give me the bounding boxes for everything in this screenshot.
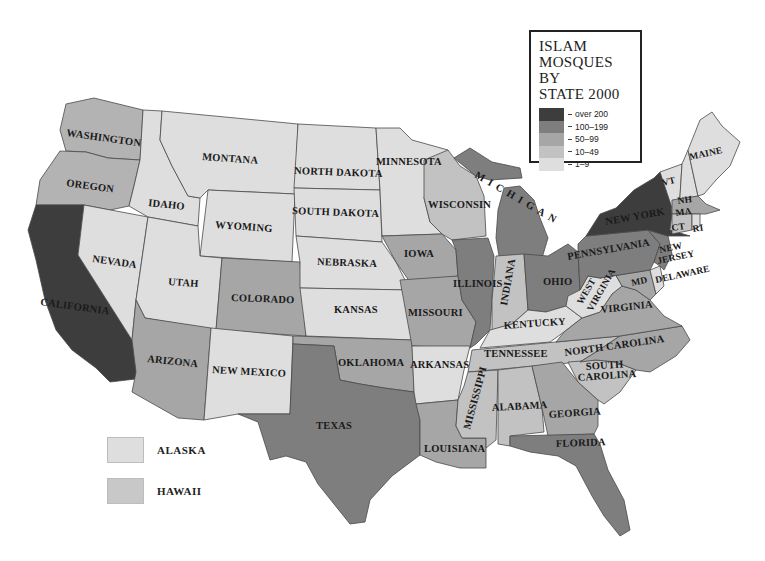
label-arkansas: ARKANSAS — [410, 359, 469, 370]
legend-classes: over 200 100–199 50–99 10–49 1–9 — [539, 108, 632, 171]
label-ohio: OHIO — [543, 276, 572, 287]
legend-title-line: STATE 2000 — [539, 86, 632, 102]
legend-title-line: ISLAM — [539, 38, 632, 54]
legend-label: over 200 — [568, 109, 608, 119]
legend-row: 50–99 — [539, 133, 632, 146]
label-missouri: MISSOURI — [408, 307, 463, 318]
legend-title: ISLAM MOSQUES BY STATE 2000 — [539, 38, 632, 102]
legend-label: 1–9 — [568, 159, 589, 169]
alaska-label: ALASKA — [157, 444, 206, 456]
label-kansas: KANSAS — [334, 304, 378, 315]
label-new-hampshire: NH — [677, 194, 693, 206]
us-map: WASHINGTON OREGON CALIFORNIA NEVADA IDAH… — [0, 0, 765, 561]
legend-swatch — [539, 158, 564, 171]
legend-title-line: MOSQUES BY — [539, 54, 632, 86]
label-minnesota: MINNESOTA — [376, 156, 442, 167]
label-iowa: IOWA — [404, 248, 434, 259]
legend-label: 10–49 — [568, 147, 599, 157]
alaska-swatch — [107, 437, 144, 463]
label-texas: TEXAS — [316, 420, 352, 431]
hawaii-swatch — [107, 478, 144, 504]
state-north-dakota[interactable] — [294, 124, 380, 190]
legend-row: over 200 — [539, 108, 632, 121]
legend-row: 10–49 — [539, 146, 632, 159]
legend-swatch — [539, 121, 564, 134]
label-colorado: COLORADO — [231, 292, 295, 305]
state-florida[interactable] — [510, 434, 630, 536]
label-nebraska: NEBRASKA — [317, 256, 378, 269]
legend-swatch — [539, 108, 564, 121]
legend-label: 50–99 — [568, 134, 599, 144]
legend-row: 1–9 — [539, 158, 632, 171]
legend: ISLAM MOSQUES BY STATE 2000 over 200 100… — [529, 30, 642, 163]
label-utah: UTAH — [168, 276, 199, 289]
hawaii-label: HAWAII — [157, 485, 202, 497]
label-connecticut: CT — [671, 221, 686, 233]
label-florida: FLORIDA — [556, 436, 606, 449]
legend-swatch — [539, 133, 564, 146]
label-illinois: ILLINOIS — [453, 278, 502, 289]
label-tennessee: TENNESSEE — [484, 348, 548, 359]
legend-label: 100–199 — [568, 122, 608, 132]
label-louisiana: LOUISIANA — [424, 443, 486, 454]
inset-alaska: ALASKA — [107, 437, 206, 463]
label-rhode-island: RI — [692, 223, 704, 234]
inset-hawaii: HAWAII — [107, 478, 202, 504]
legend-swatch — [539, 146, 564, 159]
legend-row: 100–199 — [539, 121, 632, 134]
label-wisconsin: WISCONSIN — [428, 199, 491, 210]
label-oklahoma: OKLAHOMA — [338, 357, 405, 368]
